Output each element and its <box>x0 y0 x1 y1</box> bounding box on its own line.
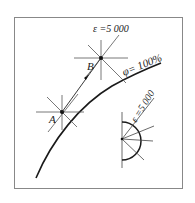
process-line <box>62 58 101 112</box>
protractor-epsilon-label: ε =5 000 <box>128 88 156 124</box>
saturation-curve-label: φ= 100% <box>120 51 163 78</box>
psychrometric-diagram: φ= 100% A B ε =5 000 ε =5 000 <box>0 0 195 203</box>
point-b-label: B <box>87 60 94 72</box>
point-a-label: A <box>48 113 56 125</box>
point-a-star <box>36 94 84 132</box>
process-epsilon-label: ε =5 000 <box>93 23 129 34</box>
diagram-frame <box>15 18 183 189</box>
point-b <box>99 56 103 60</box>
